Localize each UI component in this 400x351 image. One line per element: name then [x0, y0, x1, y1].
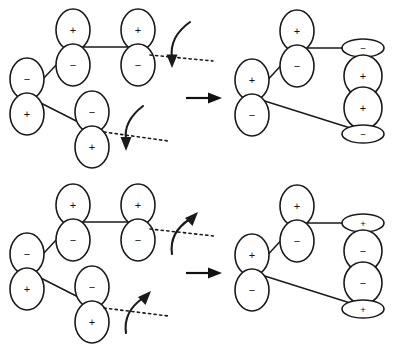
lobe-sign: − — [89, 281, 95, 293]
lobe-sign: − — [249, 109, 255, 121]
lobe-sign: − — [89, 106, 95, 118]
lobe-sign: + — [249, 249, 255, 261]
lobe-sign: + — [24, 283, 30, 295]
lobe-sign: + — [89, 316, 95, 328]
lobe-sign: + — [135, 199, 141, 211]
reaction-arrow-top — [186, 93, 222, 104]
lobe-sign: + — [70, 24, 76, 36]
row-top: − + + − + − − + — [10, 9, 384, 168]
lobe-sign: + — [89, 141, 95, 153]
lobe-sign: − — [24, 248, 30, 260]
lobe-sign: + — [294, 25, 300, 37]
lobe-sign: + — [294, 200, 300, 212]
rotation-arrow-lower-terminal-bottom — [104, 291, 168, 333]
product-orbital-stack-lower: + − — [342, 87, 384, 143]
lobe-sign: − — [135, 59, 141, 71]
lobe-sign: + — [360, 70, 366, 82]
row-bottom: − + + − + − − + — [10, 184, 384, 343]
orbital-lower-inner: − + — [75, 266, 109, 343]
lobe-sign: + — [360, 102, 366, 114]
lobe-sign: − — [70, 234, 76, 246]
rotation-arrow-lower-terminal-top — [104, 106, 168, 151]
lobe-sign: − — [294, 60, 300, 72]
lobe-sign: − — [294, 235, 300, 247]
lobe-sign: − — [360, 129, 366, 140]
product-orbital-left-terminal: + − — [235, 234, 269, 311]
lobe-sign: − — [249, 284, 255, 296]
lobe-sign: − — [135, 234, 141, 246]
lobe-sign: − — [24, 73, 30, 85]
lobe-sign: + — [360, 304, 366, 315]
product-orbital-stack-lower: − + — [342, 262, 384, 318]
rotation-arrow-upper-terminal-top — [150, 22, 213, 68]
lobe-sign: + — [360, 218, 366, 229]
lobe-sign: − — [360, 245, 366, 257]
figure-canvas: − + + − + − − + — [0, 0, 400, 351]
orbital-left-terminal: − + — [10, 233, 44, 310]
rotation-arrow-upper-terminal-bottom — [150, 212, 214, 254]
lobe-sign: + — [24, 108, 30, 120]
lobe-sign: + — [135, 24, 141, 36]
lobe-sign: − — [70, 59, 76, 71]
orbital-left-terminal: − + — [10, 58, 44, 135]
lobe-sign: − — [360, 277, 366, 289]
reaction-arrow-bottom — [186, 268, 222, 279]
lobe-sign: − — [360, 43, 366, 54]
lobe-sign: + — [70, 199, 76, 211]
orbital-lower-inner: − + — [75, 91, 109, 168]
lobe-sign: + — [249, 74, 255, 86]
product-orbital-left-terminal: + − — [235, 59, 269, 136]
